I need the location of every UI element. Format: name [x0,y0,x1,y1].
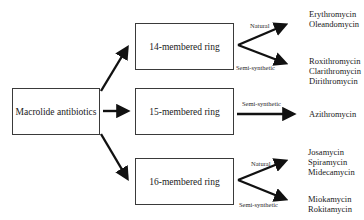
drug-oleandomycin: Oleandomycin [309,19,360,29]
drug-rokitamycin: Rokitamycin [308,204,353,214]
root-node: Macrolide antibiotics [13,89,100,135]
drug-roxithromycin: Roxithromycin [309,56,361,66]
branch-label-14-natural: Natural [250,22,270,29]
ring-14-node: 14-membered ring [136,24,234,70]
drug-spiramycin: Spiramycin [308,157,348,167]
drug-josamycin: Josamycin [308,147,345,157]
drug-miokamycin: Miokamycin [308,194,352,204]
drug-dirithromycin: Dirithromycin [309,76,358,86]
branch-label-16-semisynthetic: Semi-synthetic [239,201,278,208]
drug-clarithromycin: Clarithromycin [309,66,362,76]
ring-15-node: 15-membered ring [136,89,234,135]
branch-label-15-semisynthetic: Semi-synthetic [242,100,281,107]
ring-16-node: 16-membered ring [136,159,234,205]
macrolide-classification-diagram: Macrolide antibiotics 14-membered ring N… [0,0,364,220]
branch-label-16-natural: Natural [251,160,271,167]
ring-14-label: 14-membered ring [149,42,220,52]
ring-16-label: 16-membered ring [149,177,220,187]
drug-erythromycin: Erythromycin [309,9,357,19]
arrow-root-to-14 [101,48,127,91]
drug-azithromycin: Azithromycin [309,109,357,119]
arrow-root-to-16 [101,134,127,178]
drug-midecamycin: Midecamycin [308,167,355,177]
arrow-14-semisynthetic [238,45,285,63]
ring-15-label: 15-membered ring [149,107,220,117]
branch-label-14-semisynthetic: Semi-synthetic [236,64,275,71]
root-label: Macrolide antibiotics [16,107,97,117]
arrow-16-semisynthetic [238,180,285,199]
